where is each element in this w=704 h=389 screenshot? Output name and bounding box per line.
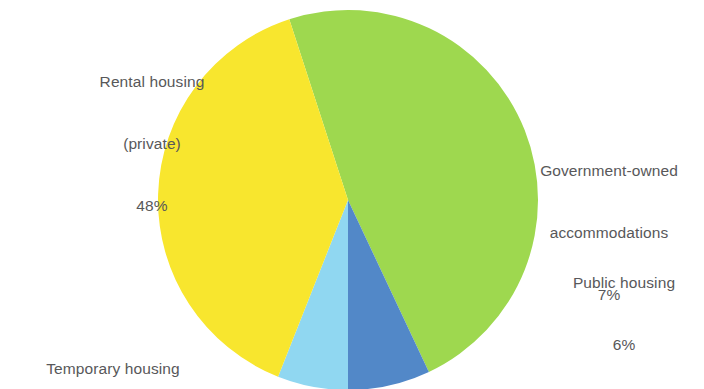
- slice-label-temporary-housing-line1: Temporary housing: [6, 359, 220, 380]
- slice-label-temporary-housing: Temporary housing (mostly prefabricated)…: [6, 318, 220, 389]
- slice-label-government-owned-line1: Government-owned: [516, 161, 702, 182]
- slice-label-rental-housing-line1: Rental housing: [62, 72, 242, 93]
- slice-label-public-housing-value: 6%: [548, 335, 700, 356]
- slice-label-rental-housing-value: 48%: [62, 196, 242, 217]
- pie-chart-figure: Rental housing (private) 48% Government-…: [0, 0, 704, 389]
- slice-label-public-housing: Public housing 6%: [548, 232, 700, 389]
- slice-label-rental-housing-line2: (private): [62, 134, 242, 155]
- slice-label-rental-housing: Rental housing (private) 48%: [62, 31, 242, 258]
- slice-label-public-housing-line1: Public housing: [548, 273, 700, 294]
